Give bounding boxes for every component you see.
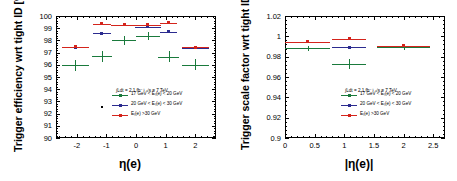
x-minor-tick (386, 16, 387, 18)
x-minor-tick (344, 16, 345, 18)
y-minor-tick (285, 65, 287, 66)
y-minor-tick (214, 70, 216, 71)
y-tick-label: 99 (22, 24, 52, 33)
y-major-tick (285, 57, 289, 58)
right-legend-marker-1 (348, 104, 351, 107)
x-minor-tick (148, 136, 149, 138)
x-minor-tick (183, 16, 184, 18)
x-minor-tick (398, 136, 399, 138)
right-x-axis-title: |η(e)| (289, 157, 429, 171)
x-minor-tick (71, 16, 72, 18)
y-minor-tick (56, 60, 58, 61)
data-point-marker (308, 46, 309, 51)
y-minor-tick (285, 44, 287, 45)
x-minor-tick (148, 16, 149, 18)
y-minor-tick (56, 92, 58, 93)
y-tick-label: 0.92 (251, 113, 281, 122)
x-minor-tick (338, 16, 339, 18)
x-minor-tick (213, 16, 214, 18)
x-minor-tick (404, 136, 405, 138)
y-tick-label: 1 (251, 32, 281, 41)
x-minor-tick (112, 16, 113, 18)
x-minor-tick (83, 136, 84, 138)
x-minor-tick (315, 16, 316, 18)
y-tick-label: 96 (22, 60, 52, 69)
left-x-axis-title: η(e) (60, 157, 200, 171)
y-minor-tick (56, 43, 58, 44)
y-minor-tick (443, 101, 445, 102)
x-minor-tick (386, 136, 387, 138)
data-point-marker (100, 32, 103, 35)
x-minor-tick (118, 136, 119, 138)
x-minor-tick (374, 16, 375, 18)
x-minor-tick (315, 136, 316, 138)
x-minor-tick (172, 16, 173, 18)
y-minor-tick (443, 69, 445, 70)
y-minor-tick (56, 111, 58, 112)
y-minor-tick (285, 73, 287, 74)
x-minor-tick (183, 136, 184, 138)
y-major-tick (441, 57, 445, 58)
y-minor-tick (214, 26, 216, 27)
x-minor-tick (195, 136, 196, 138)
y-minor-tick (56, 99, 58, 100)
x-minor-tick (368, 136, 369, 138)
x-minor-tick (362, 136, 363, 138)
x-minor-tick (59, 136, 60, 138)
y-major-tick (441, 97, 445, 98)
x-tick-label: 1.5 (362, 141, 386, 150)
left-legend-marker-0 (119, 94, 122, 97)
y-major-tick (56, 53, 60, 54)
data-point-marker (348, 46, 351, 49)
y-minor-tick (214, 106, 216, 107)
y-minor-tick (443, 24, 445, 25)
x-minor-tick (83, 16, 84, 18)
y-major-tick (212, 114, 216, 115)
x-minor-tick (309, 16, 310, 18)
x-tick-label: -2 (65, 141, 89, 150)
x-minor-tick (154, 16, 155, 18)
y-minor-tick (443, 93, 445, 94)
y-minor-tick (214, 31, 216, 32)
y-minor-tick (56, 82, 58, 83)
y-major-tick (212, 40, 216, 41)
data-point-marker (75, 63, 76, 68)
y-major-tick (441, 36, 445, 37)
y-minor-tick (214, 128, 216, 129)
y-minor-tick (56, 18, 58, 19)
y-minor-tick (214, 118, 216, 119)
y-minor-tick (56, 21, 58, 22)
x-minor-tick (392, 136, 393, 138)
x-minor-tick (421, 16, 422, 18)
y-minor-tick (56, 116, 58, 117)
y-major-tick (212, 65, 216, 66)
y-minor-tick (56, 123, 58, 124)
y-major-tick (56, 65, 60, 66)
x-minor-tick (439, 16, 440, 18)
y-minor-tick (214, 18, 216, 19)
x-minor-tick (201, 136, 202, 138)
y-minor-tick (285, 93, 287, 94)
y-minor-tick (214, 116, 216, 117)
x-minor-tick (368, 16, 369, 18)
y-major-tick (285, 97, 289, 98)
y-minor-tick (285, 105, 287, 106)
y-minor-tick (443, 49, 445, 50)
x-minor-tick (421, 136, 422, 138)
data-point-marker (100, 22, 103, 25)
x-tick-label: -1 (94, 141, 118, 150)
data-point-marker (167, 30, 170, 33)
x-minor-tick (65, 136, 66, 138)
y-minor-tick (56, 48, 58, 49)
y-minor-tick (56, 75, 58, 76)
x-minor-tick (118, 16, 119, 18)
y-minor-tick (56, 55, 58, 56)
x-tick-label: 0.5 (303, 141, 327, 150)
y-major-tick (212, 77, 216, 78)
y-minor-tick (285, 122, 287, 123)
y-minor-tick (56, 79, 58, 80)
y-minor-tick (214, 104, 216, 105)
y-minor-tick (214, 111, 216, 112)
y-major-tick (285, 36, 289, 37)
data-point-marker (195, 62, 196, 67)
